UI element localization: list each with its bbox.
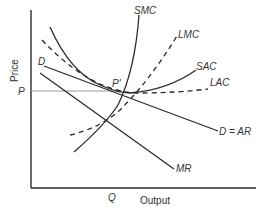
smc-curve [74,15,139,152]
demand-start-label: D [38,56,45,67]
mr-label: MR [176,163,192,174]
sac-curve [50,27,196,93]
quantity-tick-label: Q [108,192,116,203]
price-tick-label: P [18,86,25,97]
lac-curve [42,40,208,93]
x-axis-label: Output [140,195,170,206]
smc-label: SMC [134,5,157,16]
lmc-label: LMC [178,29,200,40]
lmc-curve [70,36,177,135]
sac-label: SAC [196,61,217,72]
equilibrium-point-label: P' [112,78,122,89]
cost-revenue-diagram: Price Output P Q P' SMC LMC SAC LAC D = … [0,0,268,215]
lac-label: LAC [210,77,230,88]
demand-curve [44,66,218,131]
demand-label: D = AR [219,126,251,137]
y-axis-label: Price [9,59,20,82]
